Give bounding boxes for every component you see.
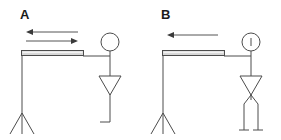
panel-a-head [101, 33, 119, 51]
figure-container: A [0, 0, 281, 140]
panel-a-label: A [20, 7, 30, 22]
panel-a: A [10, 7, 121, 134]
panel-b: B [151, 7, 263, 134]
panel-a-person [99, 33, 121, 122]
illustration-svg: A [0, 0, 281, 140]
panel-b-bar [163, 51, 225, 56]
panel-b-stand [151, 52, 175, 134]
panel-b-leg-right-upper [251, 95, 258, 104]
panel-b-torso [240, 76, 262, 95]
panel-b-arrow-left [167, 32, 218, 38]
panel-a-arrow-left [26, 29, 78, 35]
panel-b-person [239, 33, 263, 130]
panel-b-leg-left-upper [244, 95, 251, 104]
panel-a-arrow-right [26, 38, 78, 44]
panel-a-torso [99, 76, 121, 95]
panel-a-bar [22, 51, 84, 56]
panel-a-stand [10, 52, 34, 134]
panel-b-label: B [161, 7, 170, 22]
